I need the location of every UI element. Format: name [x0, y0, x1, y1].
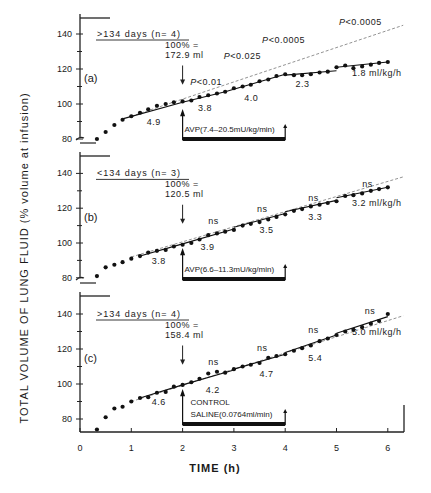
baseline-note: 100% = — [165, 320, 199, 330]
data-point — [197, 95, 201, 99]
treatment-bar — [183, 422, 286, 426]
data-point — [309, 72, 313, 76]
data-point — [317, 339, 321, 343]
data-point — [104, 265, 108, 269]
data-point — [223, 371, 227, 375]
data-point — [317, 70, 321, 74]
x-tick-label: 1 — [129, 443, 134, 453]
slope-label: 3.3 — [308, 212, 322, 222]
data-point — [129, 114, 133, 118]
data-point — [292, 209, 296, 213]
data-point — [120, 118, 124, 122]
data-point — [377, 187, 381, 191]
slope-label: 2.3 — [295, 79, 309, 89]
significance-label: ns — [208, 216, 219, 226]
data-point — [283, 352, 287, 356]
x-tick-label: 0 — [77, 443, 82, 453]
slope-label: 1.8 ml/kg/h — [352, 68, 402, 78]
data-point — [249, 363, 253, 367]
data-point — [146, 107, 150, 111]
slope-label: 4.2 — [206, 385, 220, 395]
up-arrow-icon — [283, 409, 287, 413]
up-arrow-icon — [180, 109, 185, 116]
data-point — [266, 217, 270, 221]
data-point — [129, 399, 133, 403]
y-tick-label: 100 — [57, 238, 72, 248]
up-arrow-icon — [283, 124, 287, 128]
y-tick-label: 140 — [57, 29, 72, 39]
data-point — [343, 329, 347, 333]
baseline-note: 120.5 ml — [165, 189, 204, 199]
data-point — [386, 312, 390, 316]
arrow-head-icon — [180, 80, 185, 85]
x-axis-title: TIME (h) — [189, 462, 240, 474]
data-point — [326, 201, 330, 205]
data-point — [172, 244, 176, 248]
data-point — [386, 185, 390, 189]
significance-label: ns — [308, 325, 319, 335]
data-point — [155, 249, 159, 253]
data-point — [206, 233, 210, 237]
data-point — [241, 224, 245, 228]
data-point — [104, 130, 108, 134]
slope-label: 4.6 — [152, 397, 166, 407]
data-point — [120, 405, 124, 409]
data-point — [334, 65, 338, 69]
data-point — [326, 336, 330, 340]
data-point — [189, 380, 193, 384]
data-point — [164, 390, 168, 394]
data-point — [206, 371, 210, 375]
significance-label: ns — [257, 343, 268, 353]
treatment-label: AVP(6.6–11.3mU/kg/min) — [185, 265, 275, 274]
data-point — [274, 215, 278, 219]
data-point — [232, 367, 236, 371]
data-point — [164, 248, 168, 252]
slope-label: 3.9 — [201, 242, 215, 252]
y-tick-label: 80 — [62, 134, 72, 144]
data-point — [317, 203, 321, 207]
data-point — [223, 90, 227, 94]
baseline-note: 100% = — [165, 179, 199, 189]
data-point — [172, 100, 176, 104]
data-point — [274, 354, 278, 358]
data-point — [377, 319, 381, 323]
slope-label: 4.7 — [260, 369, 274, 379]
data-point — [326, 70, 330, 74]
data-point — [257, 361, 261, 365]
data-point — [309, 343, 313, 347]
panel-header: >134 days (n= 4) — [97, 29, 181, 39]
data-point — [112, 123, 116, 127]
data-point — [241, 364, 245, 368]
y-tick-label: 100 — [57, 99, 72, 109]
data-point — [181, 99, 185, 103]
treatment-bar — [183, 137, 286, 141]
slope-label: 5.4 — [308, 353, 322, 363]
treatment-bar — [183, 277, 286, 281]
data-point — [241, 84, 245, 88]
panel-c: 80100120140(c)>134 days (n= 4)100% =158.… — [57, 292, 403, 432]
slope-label: 4.0 — [244, 93, 258, 103]
y-tick-label: 120 — [57, 64, 72, 74]
data-point — [155, 391, 159, 395]
data-point — [249, 83, 253, 87]
data-point — [343, 194, 347, 198]
data-point — [266, 356, 270, 360]
data-point — [232, 86, 236, 90]
significance-label: ns — [257, 204, 268, 214]
data-point — [369, 63, 373, 67]
x-tick-label: 3 — [231, 443, 236, 453]
x-tick-label: 2 — [180, 443, 185, 453]
data-point — [369, 189, 373, 193]
data-point — [112, 406, 116, 410]
data-point — [197, 377, 201, 381]
arrow-head-icon — [180, 219, 185, 224]
data-point — [309, 204, 313, 208]
panel-header: <134 days (n= 3) — [97, 168, 181, 178]
data-point — [283, 72, 287, 76]
data-point — [351, 193, 355, 197]
up-arrow-icon — [283, 264, 287, 268]
up-arrow-icon — [180, 389, 185, 396]
slope-label: 3.8 — [152, 256, 166, 266]
panel-header: >134 days (n= 4) — [97, 309, 181, 319]
data-point — [386, 60, 390, 64]
